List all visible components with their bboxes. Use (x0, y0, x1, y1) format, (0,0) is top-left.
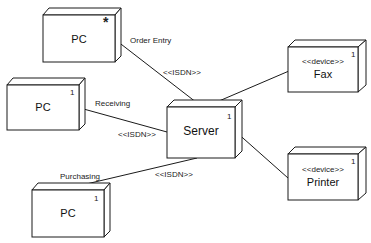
stereotype-isdn-purchasing: <<ISDN>> (155, 170, 193, 179)
multiplicity-server: 1 (227, 112, 231, 121)
multiplicity-printer: 1 (351, 157, 355, 166)
multiplicity-pc-receiving: 1 (70, 88, 74, 97)
multiplicity-pc-purchasing: 1 (94, 194, 98, 203)
node-title-fax: Fax (288, 68, 358, 80)
node-title-printer: Printer (288, 176, 358, 188)
role-order-entry: Order Entry (130, 36, 171, 45)
stereotype-isdn-receiving: <<ISDN>> (118, 130, 156, 139)
role-purchasing: Purchasing (60, 172, 100, 181)
multiplicity-fax: 1 (351, 50, 355, 59)
connection-printer (235, 131, 288, 178)
stereotype-printer: <<device>> (288, 165, 358, 174)
role-receiving: Receiving (95, 99, 130, 108)
connection-receiving (80, 108, 167, 132)
node-title-pc-receiving: PC (7, 101, 79, 113)
stereotype-isdn-order-entry: <<ISDN>> (163, 68, 201, 77)
node-title-pc-order: PC (43, 33, 115, 45)
node-title-server: Server (167, 125, 235, 137)
node-fax (288, 40, 366, 92)
multiplicity-pc-order: * (103, 15, 108, 29)
node-title-pc-purchasing: PC (32, 207, 104, 219)
stereotype-fax: <<device>> (288, 57, 358, 66)
